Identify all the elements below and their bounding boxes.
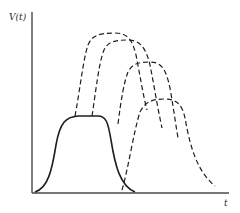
dashed-pulse-4 [122,99,215,190]
y-axis-label: V(t) [9,13,26,22]
dashed-pulse-2 [92,40,162,128]
dashed-pulse-1 [75,33,147,116]
pulse-diagram: V(t) t [0,0,240,213]
solid-pulse [35,116,135,192]
diagram-canvas [0,0,240,213]
dashed-pulse-3 [118,62,178,138]
x-axis-label: t [224,199,228,208]
